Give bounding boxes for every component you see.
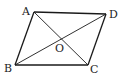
parallelogram-diagonals — [15, 12, 106, 65]
edge-dc — [88, 14, 106, 65]
vertex-label-a: A — [21, 5, 31, 18]
diagonal-bd — [15, 14, 106, 65]
parallelogram-diagram: A D C B O — [0, 0, 123, 79]
vertex-label-b: B — [4, 62, 12, 75]
vertex-label-c: C — [90, 63, 98, 76]
intersection-label-o: O — [55, 42, 64, 55]
vertex-label-d: D — [109, 8, 118, 21]
diagonal-ac — [34, 12, 88, 65]
edge-ba — [15, 12, 34, 65]
edge-ad — [34, 12, 106, 14]
